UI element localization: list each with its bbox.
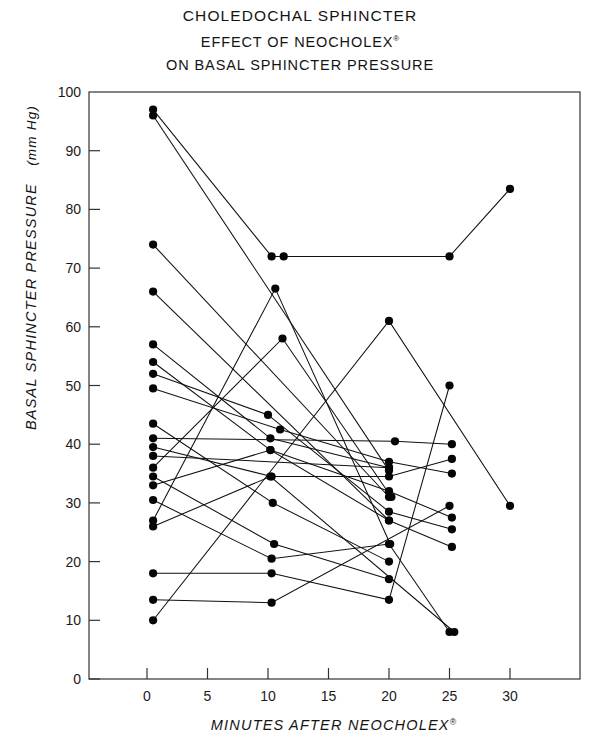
data-point bbox=[149, 481, 157, 489]
y-tick-label: 100 bbox=[58, 84, 82, 100]
data-point bbox=[266, 472, 274, 480]
x-tick-label: 30 bbox=[502, 688, 518, 704]
data-point bbox=[264, 411, 272, 419]
series-patient-02 bbox=[149, 111, 393, 474]
y-tick-label: 70 bbox=[65, 260, 81, 276]
data-point bbox=[149, 464, 157, 472]
y-axis-ticks: 0102030405060708090100 bbox=[58, 84, 100, 687]
x-axis-ticks: 051015202530 bbox=[143, 668, 518, 704]
y-tick-label: 50 bbox=[65, 378, 81, 394]
data-point bbox=[149, 434, 157, 442]
data-point bbox=[448, 440, 456, 448]
data-point bbox=[149, 370, 157, 378]
series-line bbox=[153, 292, 389, 521]
data-point bbox=[391, 437, 399, 445]
data-point bbox=[506, 185, 514, 193]
data-point bbox=[448, 525, 456, 533]
data-point bbox=[269, 499, 277, 507]
data-point bbox=[278, 334, 286, 342]
data-point bbox=[385, 464, 393, 472]
data-point bbox=[385, 558, 393, 566]
y-tick-label: 90 bbox=[65, 143, 81, 159]
x-tick-label: 5 bbox=[204, 688, 212, 704]
x-axis-registered-icon: ® bbox=[450, 717, 457, 727]
series-line bbox=[153, 424, 389, 562]
x-tick-label: 10 bbox=[260, 688, 276, 704]
data-point bbox=[387, 493, 395, 501]
plot-frame bbox=[89, 92, 580, 679]
data-point bbox=[149, 472, 157, 480]
data-point bbox=[385, 596, 393, 604]
x-tick-label: 0 bbox=[143, 688, 151, 704]
x-axis-title: MINUTES AFTER NEOCHOLEX® bbox=[211, 717, 457, 733]
data-point bbox=[386, 540, 394, 548]
data-point bbox=[149, 596, 157, 604]
data-point bbox=[149, 420, 157, 428]
data-point bbox=[385, 508, 393, 516]
y-axis-title-units: (mm Hg) bbox=[24, 105, 39, 166]
data-point bbox=[506, 502, 514, 510]
data-point bbox=[149, 443, 157, 451]
data-series-layer bbox=[149, 106, 514, 637]
data-point bbox=[149, 496, 157, 504]
data-point bbox=[445, 252, 453, 260]
data-point bbox=[385, 516, 393, 524]
x-tick-label: 20 bbox=[381, 688, 397, 704]
data-point bbox=[149, 522, 157, 530]
data-point bbox=[271, 285, 279, 293]
x-axis-title-main: MINUTES AFTER NEOCHOLEX bbox=[211, 717, 450, 733]
data-point bbox=[268, 569, 276, 577]
data-point bbox=[149, 340, 157, 348]
y-tick-label: 80 bbox=[65, 201, 81, 217]
data-point bbox=[149, 241, 157, 249]
data-point bbox=[149, 384, 157, 392]
data-point bbox=[445, 381, 453, 389]
figure-root: CHOLEDOCHAL SPHINCTER EFFECT OF NEOCHOLE… bbox=[0, 0, 600, 744]
data-point bbox=[385, 317, 393, 325]
series-patient-01 bbox=[149, 106, 514, 261]
data-point bbox=[149, 569, 157, 577]
series-patient-11 bbox=[149, 443, 456, 481]
series-line bbox=[153, 477, 389, 580]
data-point bbox=[448, 455, 456, 463]
y-tick-label: 10 bbox=[65, 612, 81, 628]
data-point bbox=[266, 434, 274, 442]
series-patient-19 bbox=[149, 381, 454, 604]
data-point bbox=[276, 425, 284, 433]
plot-border bbox=[89, 92, 580, 679]
data-point bbox=[149, 616, 157, 624]
data-point bbox=[448, 543, 456, 551]
data-point bbox=[450, 628, 458, 636]
data-point bbox=[266, 446, 274, 454]
data-point bbox=[149, 111, 157, 119]
y-tick-label: 40 bbox=[65, 436, 81, 452]
y-axis-title-main: BASAL SPHINCTER PRESSURE bbox=[23, 183, 39, 430]
data-point bbox=[385, 472, 393, 480]
chart-svg: 0102030405060708090100 051015202530 BASA… bbox=[0, 0, 600, 744]
data-point bbox=[268, 252, 276, 260]
series-line bbox=[153, 110, 510, 257]
data-point bbox=[445, 502, 453, 510]
x-tick-label: 25 bbox=[442, 688, 458, 704]
data-point bbox=[448, 514, 456, 522]
series-line bbox=[153, 500, 449, 632]
data-point bbox=[149, 288, 157, 296]
data-point bbox=[149, 358, 157, 366]
series-patient-04 bbox=[149, 288, 393, 525]
data-point bbox=[268, 599, 276, 607]
x-tick-label: 15 bbox=[321, 688, 337, 704]
y-tick-label: 30 bbox=[65, 495, 81, 511]
series-line bbox=[153, 438, 452, 444]
series-line bbox=[153, 374, 452, 530]
series-line bbox=[153, 506, 449, 603]
data-point bbox=[149, 452, 157, 460]
y-tick-label: 20 bbox=[65, 554, 81, 570]
y-tick-label: 0 bbox=[73, 671, 81, 687]
y-axis-title: BASAL SPHINCTER PRESSURE (mm Hg) bbox=[23, 105, 39, 430]
y-tick-label: 60 bbox=[65, 319, 81, 335]
data-point bbox=[448, 470, 456, 478]
data-point bbox=[270, 540, 278, 548]
data-point bbox=[280, 252, 288, 260]
data-point bbox=[268, 555, 276, 563]
series-line bbox=[153, 321, 510, 620]
